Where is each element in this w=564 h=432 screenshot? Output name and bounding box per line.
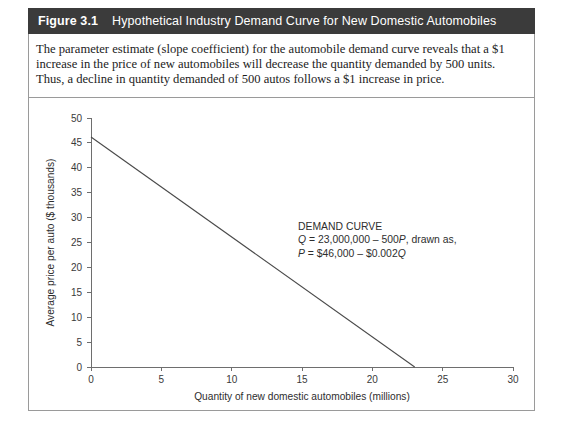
annotation-eq-body2: = $46,000 – $0.002 [305,248,398,259]
demand-curve-annotation: DEMAND CURVE Q = 23,000,000 – 500P, draw… [298,220,457,260]
section-divider [28,97,535,98]
annotation-eq-body: = 23,000,000 – 500 [306,234,399,245]
figure-description: The parameter estimate (slope coefficien… [36,42,526,87]
annotation-var-p2: P [298,248,305,259]
annotation-var-p: P [399,234,406,245]
annotation-equation-q: Q = 23,000,000 – 500P, drawn as, [298,233,457,246]
annotation-equation-p: P = $46,000 – $0.002Q [298,247,457,260]
annotation-eq-tail: , drawn as, [406,234,457,245]
annotation-heading: DEMAND CURVE [298,220,457,233]
figure-title: Hypothetical Industry Demand Curve for N… [112,14,496,28]
annotation-var-q2: Q [398,248,406,259]
figure-header-bar: Figure 3.1 Hypothetical Industry Demand … [28,8,535,34]
annotation-var-q: Q [298,234,306,245]
figure-number: Figure 3.1 [38,14,98,28]
